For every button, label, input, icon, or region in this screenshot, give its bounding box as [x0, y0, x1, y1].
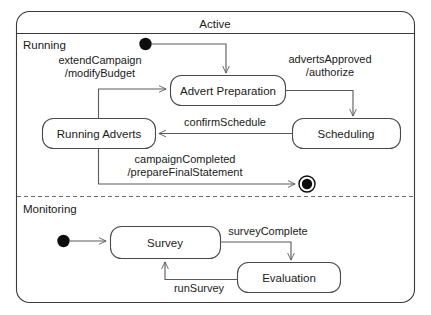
initial-state-node-running: [139, 38, 151, 50]
transition-label-adverts-approved-line1: advertsApproved: [288, 53, 371, 65]
state-evaluation-label: Evaluation: [262, 272, 316, 284]
transition-label-confirm-schedule: confirmSchedule: [184, 116, 266, 128]
state-advert-preparation: Advert Preparation: [171, 76, 286, 106]
transition-label-campaign-completed-line2: /prepareFinalStatement: [128, 166, 243, 178]
transition-label-campaign-completed-line1: campaignCompleted: [135, 153, 236, 165]
transition-label-adverts-approved-line2: /authorize: [306, 66, 354, 78]
state-survey: Survey: [111, 227, 221, 259]
region-running-label: Running: [23, 39, 66, 51]
region-monitoring-label: Monitoring: [23, 203, 77, 215]
state-evaluation: Evaluation: [238, 263, 341, 293]
final-state-node-running: [299, 176, 315, 192]
state-scheduling: Scheduling: [293, 119, 401, 149]
initial-state-node-monitoring: [57, 235, 69, 247]
transition-label-survey-complete: surveyComplete: [228, 225, 307, 237]
state-running-adverts: Running Adverts: [43, 119, 156, 149]
transition-label-extend-campaign-line2: /modifyBudget: [65, 67, 135, 79]
transition-label-extend-campaign-line1: extendCampaign: [58, 54, 141, 66]
transition-label-run-survey: runSurvey: [174, 282, 225, 294]
final-state-core: [302, 179, 312, 189]
uml-state-diagram: Active Running Advert Preparation Runnin…: [0, 0, 431, 315]
composite-state-title: Active: [199, 18, 230, 30]
state-survey-label: Survey: [147, 237, 183, 249]
state-scheduling-label: Scheduling: [318, 128, 375, 140]
state-advert-preparation-label: Advert Preparation: [180, 85, 276, 97]
state-running-adverts-label: Running Adverts: [57, 128, 142, 140]
